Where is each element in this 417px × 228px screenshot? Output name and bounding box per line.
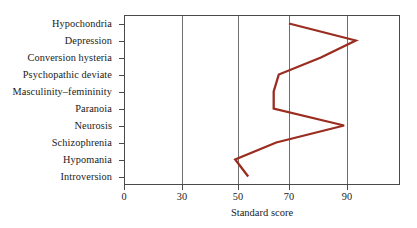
y-axis-label: Neurosis (75, 120, 112, 130)
y-axis-tick (119, 160, 124, 161)
x-axis-tick (182, 185, 183, 190)
plot-area (124, 15, 400, 185)
y-axis-labels: HypochondriaDepressionConversion hysteri… (0, 0, 118, 228)
y-axis-tick (119, 41, 124, 42)
y-axis-tick (119, 92, 124, 93)
x-axis-tick (347, 185, 348, 190)
y-axis-label: Paranoia (75, 103, 112, 113)
x-axis-tick (238, 185, 239, 190)
y-axis-tick (119, 143, 124, 144)
y-axis-tick (119, 109, 124, 110)
y-axis-label: Depression (65, 35, 112, 45)
x-axis-tick (124, 185, 125, 190)
gridline-70 (289, 16, 290, 184)
y-axis-label: Hypochondria (52, 18, 112, 28)
y-axis-tick (119, 126, 124, 127)
x-axis-tick-label: 30 (177, 192, 187, 202)
y-axis-label: Masculinity–femininity (13, 86, 112, 96)
x-axis-title: Standard score (124, 208, 400, 219)
y-axis-tick (119, 177, 124, 178)
y-axis-label: Introversion (60, 171, 112, 181)
x-axis-tick (289, 185, 290, 190)
x-axis-tick-label: 70 (284, 192, 294, 202)
y-axis-label: Hypomania (63, 154, 112, 164)
y-axis-tick (119, 24, 124, 25)
y-axis-tick (119, 58, 124, 59)
y-axis-label: Schizophrenia (52, 137, 112, 147)
x-axis-tick-label: 0 (121, 192, 126, 202)
gridline-30 (182, 16, 183, 184)
x-axis-tick-label: 50 (233, 192, 243, 202)
x-axis-tick-label: 90 (342, 192, 352, 202)
y-axis-tick (119, 75, 124, 76)
y-axis-label: Psychopathic deviate (23, 69, 112, 79)
gridline-90 (347, 16, 348, 184)
chart-container: HypochondriaDepressionConversion hysteri… (0, 0, 417, 228)
y-axis-label: Conversion hysteria (27, 52, 112, 62)
gridline-50 (238, 16, 239, 184)
